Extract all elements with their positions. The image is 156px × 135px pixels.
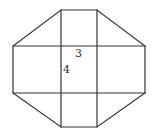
octagon-outline: [13, 10, 145, 127]
label-left-side-length: 4: [63, 64, 70, 75]
octagon-diagram: [0, 0, 156, 135]
label-top-side-length: 3: [75, 48, 82, 59]
